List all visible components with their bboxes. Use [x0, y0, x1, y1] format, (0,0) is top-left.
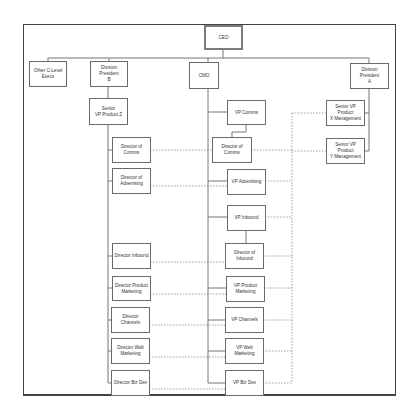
node-vp-inbound: VP Inbound [227, 205, 266, 231]
node-director-advertising: Director of Advertising [112, 168, 151, 194]
node-director-comms-left: Director of Comms [112, 137, 151, 163]
node-vp-web-marketing: VP Web Marketing [225, 338, 264, 364]
node-vp-channels: VP Channels [225, 307, 264, 333]
node-division-president-b: Division President B [90, 61, 128, 87]
node-director-web-marketing: Director Web Marketing [111, 338, 150, 364]
org-chart: CEO Other C-Level Execs Division Preside… [0, 0, 415, 420]
node-svp-product-x: Senior VP Product X Management [326, 100, 365, 126]
node-director-biz-dev: Director Biz Dev [111, 370, 150, 396]
node-director-inbound-left: Director Inbound [112, 243, 151, 269]
node-ceo: CEO [204, 25, 243, 50]
node-director-channels: Director Channels [111, 307, 150, 333]
node-cmo: CMO [189, 62, 219, 89]
node-vp-product-marketing: VP Product Marketing [226, 276, 265, 302]
node-director-product-marketing: Director Product Marketing [112, 276, 151, 301]
node-vp-advertising: VP Advertising [227, 169, 266, 195]
node-svp-product-z: Senior VP Product Z [89, 98, 128, 125]
node-vp-biz-dev: VP Biz Dev [225, 370, 264, 396]
node-division-president-a: Division President A [350, 63, 389, 89]
node-director-comms-center: Director of Comms [212, 137, 252, 163]
node-other-c-level: Other C-Level Execs [29, 61, 67, 87]
node-svp-product-y: Senior VP Product Y Management [326, 138, 365, 164]
node-vp-comms: VP Comms [227, 100, 266, 125]
node-director-inbound-center: Director of Inbound [225, 243, 264, 269]
